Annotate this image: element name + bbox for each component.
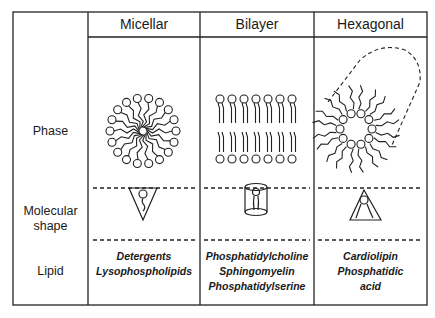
bilayer-icon — [216, 95, 296, 163]
row-label-molecular: Molecular — [13, 204, 88, 219]
lipid-item: Phosphatidylcholine — [200, 249, 314, 264]
cone-icon — [350, 190, 381, 220]
lipid-item: Cardiolipin — [314, 249, 427, 264]
header-micellar: Micellar — [88, 16, 200, 32]
lipid-item: Phosphatidic — [314, 264, 427, 279]
micelle-icon — [106, 95, 180, 168]
lipids-micellar: Detergents Lysophospholipids — [88, 249, 200, 279]
row-label-molecular-shape: Molecular shape — [13, 204, 88, 234]
header-bilayer: Bilayer — [200, 16, 314, 32]
row-label-lipid: Lipid — [13, 264, 88, 278]
dashed-separators — [93, 188, 423, 240]
hexagonal-icon — [312, 48, 420, 173]
lipids-bilayer: Phosphatidylcholine Sphingomyelin Phosph… — [200, 249, 314, 294]
header-hexagonal: Hexagonal — [314, 16, 427, 32]
lipid-item: Sphingomyelin — [200, 264, 314, 279]
lipids-hexagonal: Cardiolipin Phosphatidic acid — [314, 249, 427, 294]
lipid-item: Lysophospholipids — [88, 264, 200, 279]
row-label-shape: shape — [13, 219, 88, 234]
lipid-item: acid — [314, 279, 427, 294]
lipid-item: Phosphatidylserine — [200, 279, 314, 294]
lipid-item: Detergents — [88, 249, 200, 264]
inverted-cone-icon — [129, 188, 157, 220]
row-label-phase: Phase — [13, 124, 88, 138]
